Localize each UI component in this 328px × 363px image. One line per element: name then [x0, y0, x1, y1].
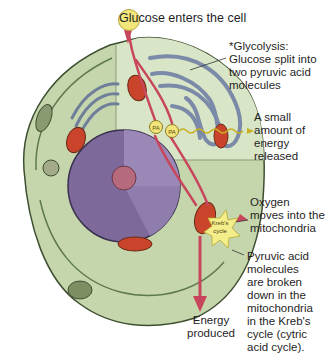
pyruvic-acid-label: Pyruvic acid molecules are broken down i… [247, 250, 313, 354]
oxygen-label: Oxygen moves into the mitochondria [250, 196, 325, 235]
svg-text:PA: PA [152, 125, 160, 131]
glucose-enters-label: Glucose enters the cell [119, 12, 246, 25]
small-energy-label: A small amount of energy released [254, 111, 305, 163]
svg-text:cycle: cycle [213, 228, 227, 234]
glycolysis-label: *Glycolysis: Glucose split into two pyru… [229, 40, 317, 92]
nucleolus [112, 166, 136, 190]
energy-produced-label: Energy produced [187, 314, 235, 340]
svg-text:Kreb's: Kreb's [212, 220, 229, 226]
svg-text:PA: PA [168, 129, 176, 135]
